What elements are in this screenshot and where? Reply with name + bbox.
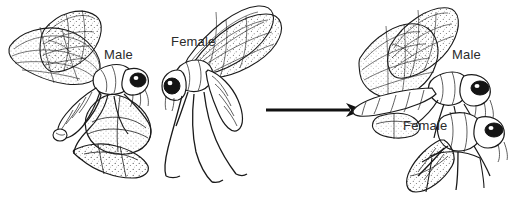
female-head	[162, 70, 186, 111]
label-female-middle: Female	[171, 35, 216, 48]
pair-female-eye	[485, 123, 503, 137]
pair-male-hindwing	[359, 24, 438, 98]
pair-male-eye	[471, 81, 489, 95]
panel-mating-pair	[340, 0, 509, 198]
label-male-right: Male	[452, 48, 481, 61]
label-male-left: Male	[104, 48, 133, 61]
female-abdomen	[206, 70, 243, 131]
label-female-right: Female	[403, 119, 448, 132]
male-eye	[130, 73, 146, 87]
female-eye	[164, 78, 180, 94]
pair-male-abdomen	[353, 88, 436, 116]
insect-mating-figure: Male	[0, 0, 509, 198]
panel-male-insect	[0, 0, 170, 198]
